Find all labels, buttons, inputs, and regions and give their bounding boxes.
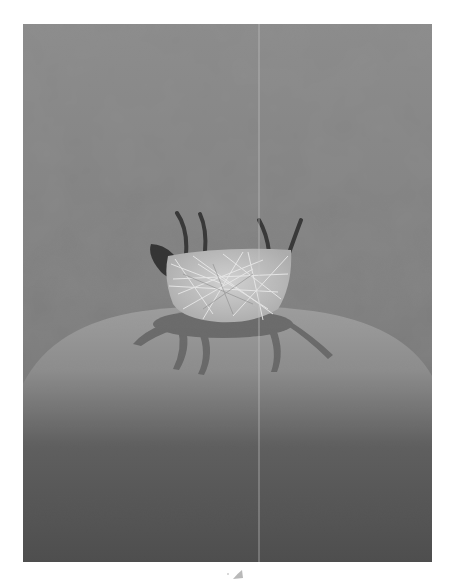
illustration [23, 24, 432, 562]
scanned-page [0, 0, 451, 581]
smudge-mark [225, 568, 245, 580]
paper-grain [23, 24, 432, 562]
illustration-canvas [23, 24, 432, 562]
